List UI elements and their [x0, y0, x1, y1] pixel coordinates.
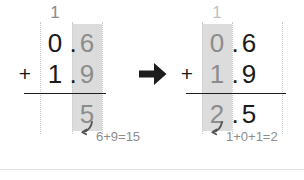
addend1-tenths-digit: 6 — [234, 28, 264, 58]
addend1-units-digit: 0 — [202, 28, 232, 58]
addend1-units-digit: 0 — [40, 28, 70, 58]
carry-digit: 1 — [202, 2, 232, 24]
sum-rule-line — [186, 93, 286, 94]
addend-row-1: 0 . 6 — [166, 28, 301, 58]
sum-row: 2 . 5 — [166, 99, 301, 129]
sum-row: 5 — [4, 99, 139, 129]
addend1-tenths-digit: 6 — [72, 28, 102, 58]
addend2-tenths-digit: 9 — [234, 59, 264, 89]
addend2-units-digit: 1 — [202, 59, 232, 89]
plus-operator: + — [16, 59, 34, 89]
addend-row-2: + 1 . 9 — [4, 59, 139, 89]
step-annotation-text: 6+9=15 — [96, 129, 140, 144]
addend-row-1: 0 . 6 — [4, 28, 139, 58]
step-annotation-text: 1+0+1=2 — [226, 129, 278, 144]
bottom-divider — [0, 169, 304, 170]
curved-hook-arrow-icon — [208, 120, 226, 138]
addition-panel-step-1: 1 0 . 6 + 1 . 9 5 6+9=15 — [4, 0, 139, 160]
carry-digit: 1 — [40, 2, 70, 24]
curved-hook-arrow-icon — [78, 120, 96, 138]
addition-panel-step-2: 1 0 . 6 + 1 . 9 2 . 5 1+0+1=2 — [166, 0, 301, 160]
arrow-right-icon — [138, 60, 168, 88]
plus-operator: + — [178, 59, 196, 89]
addend-row-2: + 1 . 9 — [166, 59, 301, 89]
sum-rule-line — [24, 93, 106, 94]
addend2-units-digit: 1 — [40, 59, 70, 89]
addend2-tenths-digit: 9 — [72, 59, 102, 89]
figure-canvas: 1 0 . 6 + 1 . 9 5 6+9=15 — [0, 0, 304, 180]
sum-tenths-digit: 5 — [234, 99, 264, 129]
